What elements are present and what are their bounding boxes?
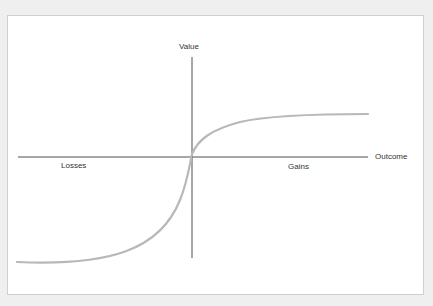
x-axis-label: Outcome: [375, 152, 407, 161]
value-function-diagram: [0, 0, 433, 306]
gains-label: Gains: [288, 162, 309, 171]
y-axis-label: Value: [179, 42, 199, 51]
losses-label: Losses: [61, 161, 86, 170]
value-curve: [17, 114, 368, 263]
